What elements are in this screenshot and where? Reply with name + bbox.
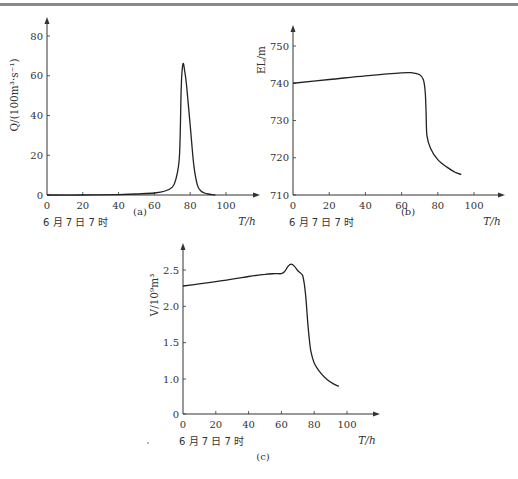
stray-mark <box>147 442 149 444</box>
y-axis-label: EL/m <box>255 46 267 74</box>
start-time-note: 6 月 7 日 7 时 <box>289 217 354 228</box>
y-axis-arrow-icon <box>45 17 50 24</box>
series-line-Q <box>47 63 215 195</box>
y-tick-label: 730 <box>270 115 289 126</box>
x-tick-label: 0 <box>180 419 186 430</box>
y-axis-label: V/10⁹m³ <box>148 274 160 318</box>
y-axis-arrow-icon <box>291 25 296 32</box>
x-tick-label: 40 <box>112 200 125 211</box>
y-tick-label: 20 <box>30 150 43 161</box>
x-tick-label: 80 <box>308 419 321 430</box>
chart-caption: (c) <box>256 451 270 462</box>
x-tick-label: 20 <box>323 200 336 211</box>
x-axis-arrow-icon <box>253 193 260 198</box>
y-axis-arrow-icon <box>181 243 186 250</box>
x-tick-label: 20 <box>76 200 89 211</box>
y-tick-label: 0 <box>173 409 179 420</box>
y-tick-label: 2.0 <box>163 301 179 312</box>
chart-a: 020406080100020406080T/h6 月 7 日 7 时Q/(10… <box>8 17 260 228</box>
x-axis-arrow-icon <box>498 193 505 198</box>
figure-canvas: 020406080100020406080T/h6 月 7 日 7 时Q/(10… <box>0 0 518 479</box>
x-tick-label: 80 <box>431 200 444 211</box>
y-tick-label: 710 <box>270 190 289 201</box>
x-tick-label: 60 <box>148 200 161 211</box>
x-axis-label: T/h <box>358 434 375 446</box>
x-tick-label: 40 <box>359 200 372 211</box>
x-axis-arrow-icon <box>373 412 380 417</box>
x-tick-label: 80 <box>184 200 197 211</box>
y-tick-label: 1.5 <box>163 337 179 348</box>
x-tick-label: 100 <box>216 200 235 211</box>
y-tick-label: 0 <box>37 190 43 201</box>
y-tick-label: 40 <box>30 110 43 121</box>
chart-c: 02040608010001.01.52.02.5T/h6 月 7 日 7 时V… <box>148 243 380 462</box>
x-tick-label: 0 <box>44 200 50 211</box>
y-tick-label: 2.5 <box>163 265 179 276</box>
x-axis-label: T/h <box>483 215 500 227</box>
chart-caption: (b) <box>401 206 415 217</box>
chart-caption: (a) <box>133 206 147 217</box>
y-tick-label: 60 <box>30 70 43 81</box>
y-tick-label: 1.0 <box>163 374 179 385</box>
chart-b: 020406080100710720730740750T/h6 月 7 日 7 … <box>255 25 505 228</box>
x-axis-label: T/h <box>238 215 255 227</box>
y-tick-label: 80 <box>30 31 43 42</box>
y-tick-label: 720 <box>270 152 289 163</box>
x-tick-label: 100 <box>464 200 483 211</box>
y-tick-label: 750 <box>270 41 289 52</box>
x-tick-label: 0 <box>290 200 296 211</box>
start-time-note: 6 月 7 日 7 时 <box>179 436 244 447</box>
x-tick-label: 20 <box>209 419 222 430</box>
x-tick-label: 60 <box>275 419 288 430</box>
series-line-V <box>183 264 339 386</box>
x-tick-label: 100 <box>337 419 356 430</box>
series-line-EL <box>293 72 461 174</box>
y-axis-label: Q/(100m³·s⁻¹) <box>8 58 20 131</box>
x-tick-label: 40 <box>242 419 255 430</box>
start-time-note: 6 月 7 日 7 时 <box>43 217 108 228</box>
y-tick-label: 740 <box>270 78 289 89</box>
